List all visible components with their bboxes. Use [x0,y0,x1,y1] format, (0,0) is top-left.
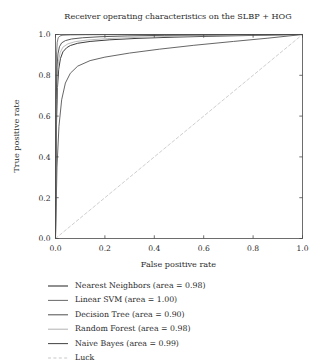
y-tick-label: 0.8 [38,71,50,80]
y-axis-label: True positive rate [11,99,21,172]
x-tick-label: 0.2 [99,244,111,253]
legend-label: Nearest Neighbors (area = 0.98) [75,281,205,290]
x-tick-label: 0.4 [148,244,160,253]
y-tick-label: 0.0 [38,234,50,243]
x-tick-label: 0.6 [198,244,210,253]
y-tick-label: 0.6 [38,112,50,121]
x-tick-label: 1.0 [296,244,308,253]
legend-label: Linear SVM (area = 1.00) [75,295,177,304]
roc-figure: Receiver operating characteristics on th… [0,0,321,364]
legend-label: Decision Tree (area = 0.90) [75,310,185,319]
legend-label: Random Forest (area = 0.98) [75,324,190,333]
chart-title: Receiver operating characteristics on th… [64,11,291,21]
y-tick-label: 0.4 [38,153,50,162]
legend-label: Naive Bayes (area = 0.99) [75,339,179,348]
x-tick-label: 0.0 [49,244,61,253]
x-tick-label: 0.8 [247,244,259,253]
y-tick-label: 0.2 [38,194,50,203]
x-axis-label: False positive rate [141,259,217,269]
y-tick-label: 1.0 [38,30,50,39]
legend-label: Luck [75,353,95,362]
